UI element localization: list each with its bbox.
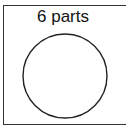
circle-shape [0, 0, 126, 135]
